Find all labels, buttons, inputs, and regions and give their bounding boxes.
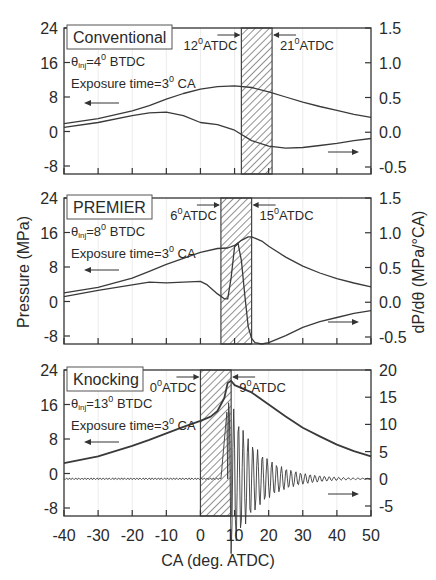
window-start-label: 60ATDC [170, 206, 217, 223]
y-left-tick-label: -8 [44, 328, 58, 345]
y-left-tick-label: 0 [49, 124, 58, 141]
series-dpdtheta [64, 112, 371, 148]
y-left-tick-label: 8 [49, 89, 58, 106]
x-tick-label: 20 [260, 527, 278, 544]
y-left-tick-label: 16 [40, 397, 58, 414]
y-right-tick-label: 15 [379, 389, 397, 406]
y-left-tick-label: 8 [49, 259, 58, 276]
injection-timing-label: θinj=40 BTDC [71, 52, 145, 70]
y-left-tick-label: 24 [40, 362, 58, 379]
panel-knocking: -8081624-505101520Knockingθinj=130 BTDCE… [40, 362, 397, 554]
x-tick-label: 10 [226, 527, 244, 544]
y-right-tick-label: 0.0 [379, 294, 401, 311]
window-start-label: 120ATDC [183, 36, 237, 53]
exposure-time-label: Exposure time=30 CA [71, 244, 196, 261]
window-end-label: 150ATDC [260, 206, 314, 223]
y-right-tick-label: 1.0 [379, 55, 401, 72]
y-left-tick-label: -8 [44, 158, 58, 175]
panel-premier: -8081624-0.50.00.51.01.5PREMIERθinj=80 B… [40, 190, 406, 346]
y-right-tick-label: 0.5 [379, 260, 401, 277]
y-left-axis-label: Pressure (MPa) [15, 216, 32, 328]
figure: -8081624-0.50.00.51.01.5Conventionalθinj… [0, 0, 436, 580]
exposure-time-label: Exposure time=30 CA [71, 74, 196, 91]
x-tick-label: 50 [362, 527, 380, 544]
y-right-tick-label: 10 [379, 416, 397, 433]
x-tick-label: 40 [328, 527, 346, 544]
panel-title: Knocking [73, 371, 139, 388]
x-tick-label: -30 [87, 527, 110, 544]
y-right-axis-label: dP/dθ (MPa/°CA) [410, 211, 427, 334]
window-end-label: 210ATDC [280, 36, 334, 53]
y-right-tick-label: 5 [379, 444, 388, 461]
y-left-tick-label: 16 [40, 55, 58, 72]
y-left-tick-label: 16 [40, 225, 58, 242]
y-right-tick-label: 20 [379, 362, 397, 379]
shaded-exposure-window [221, 198, 252, 344]
y-left-tick-label: 24 [40, 20, 58, 37]
y-right-tick-label: 1.0 [379, 225, 401, 242]
y-right-tick-label: -5 [379, 498, 393, 515]
plot-frame [64, 198, 371, 344]
y-left-tick-label: -8 [44, 500, 58, 517]
series-pressure [64, 86, 371, 124]
exposure-time-label: Exposure time=30 CA [71, 416, 196, 433]
y-left-tick-label: 24 [40, 190, 58, 207]
y-right-tick-label: 0 [379, 471, 388, 488]
panel-title: PREMIER [73, 199, 146, 216]
x-tick-label: -20 [121, 527, 144, 544]
x-tick-label: 30 [294, 527, 312, 544]
x-tick-label: -10 [155, 527, 178, 544]
y-left-tick-label: 0 [49, 466, 58, 483]
injection-timing-label: θinj=80 BTDC [71, 222, 145, 240]
y-left-tick-label: 0 [49, 294, 58, 311]
y-right-tick-label: 0.0 [379, 124, 401, 141]
y-right-tick-label: -0.5 [379, 159, 407, 176]
x-tick-label: 0 [196, 527, 205, 544]
y-right-tick-label: -0.5 [379, 329, 407, 346]
x-axis-label: CA (deg. ATDC) [161, 552, 275, 569]
window-end-label: 90ATDC [239, 378, 286, 395]
panel-title: Conventional [73, 29, 166, 46]
shaded-exposure-window [241, 28, 272, 174]
y-right-tick-label: 0.5 [379, 90, 401, 107]
y-right-tick-label: 1.5 [379, 190, 401, 207]
injection-timing-label: θinj=130 BTDC [71, 394, 152, 412]
x-tick-label: -40 [52, 527, 75, 544]
x-tick-labels: -40-30-20-1001020304050 [52, 527, 380, 544]
window-start-label: 00ATDC [150, 378, 197, 395]
panel-conventional: -8081624-0.50.00.51.01.5Conventionalθinj… [40, 20, 406, 176]
y-left-tick-label: 8 [49, 431, 58, 448]
y-right-tick-label: 1.5 [379, 20, 401, 37]
